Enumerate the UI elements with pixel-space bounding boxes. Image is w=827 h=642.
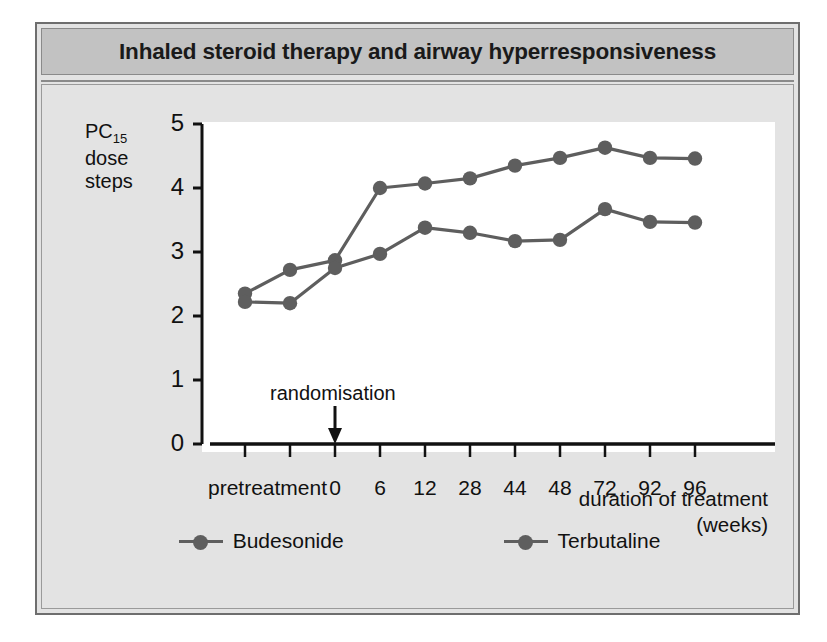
- data-point: [283, 296, 297, 310]
- data-point: [373, 181, 387, 195]
- data-point: [463, 171, 477, 185]
- legend-marker-icon-budesonide: [179, 533, 223, 549]
- data-point: [643, 151, 657, 165]
- series-line-terbutaline: [245, 209, 695, 303]
- data-point: [418, 176, 432, 190]
- data-point: [688, 215, 702, 229]
- data-point: [328, 261, 342, 275]
- data-point: [238, 295, 252, 309]
- data-point: [688, 151, 702, 165]
- data-point: [463, 226, 477, 240]
- data-point: [553, 233, 567, 247]
- data-point: [643, 215, 657, 229]
- figure-panel: Inhaled steroid therapy and airway hyper…: [35, 22, 800, 615]
- data-point: [508, 234, 522, 248]
- data-point: [508, 158, 522, 172]
- legend-label-terbutaline: Terbutaline: [558, 529, 661, 553]
- legend-item-terbutaline: Terbutaline: [504, 529, 661, 553]
- legend-marker-icon-terbutaline: [504, 533, 548, 549]
- data-point: [598, 202, 612, 216]
- data-point: [598, 140, 612, 154]
- data-point: [418, 220, 432, 234]
- chart-legend: Budesonide Terbutaline: [37, 529, 802, 553]
- data-point: [553, 151, 567, 165]
- legend-label-budesonide: Budesonide: [233, 529, 344, 553]
- data-point: [373, 247, 387, 261]
- data-point: [283, 263, 297, 277]
- series-line-budesonide: [245, 148, 695, 294]
- legend-item-budesonide: Budesonide: [179, 529, 344, 553]
